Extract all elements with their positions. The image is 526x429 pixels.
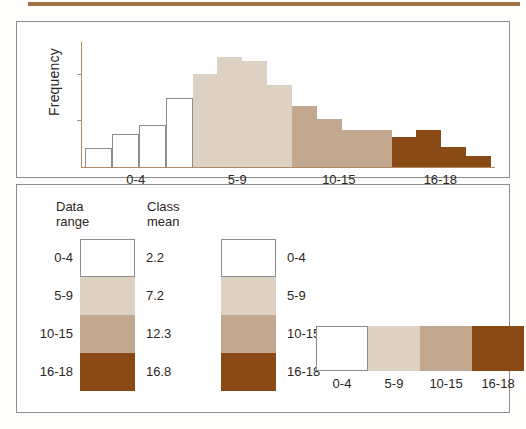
legend-range-label: 0-4 [54,250,73,265]
color-strip-labels: 0-45-910-1516-18 [316,376,524,391]
legend-header-data-range: Data range [56,199,89,229]
color-strip-cell [316,326,368,371]
legend-color-swatch [221,239,276,277]
legend-row: 5-9 [221,277,276,315]
color-strip-label: 16-18 [472,376,524,391]
histogram-bar [392,137,417,167]
y-axis-line [81,42,82,167]
histogram-bar [166,98,193,167]
legend-header-data-range-line1: Data [56,199,89,214]
histogram-bar [367,130,392,168]
top-divider-rule [28,2,520,6]
legend-row: 0-42.2 [80,239,135,277]
y-axis-tick [77,120,82,121]
histogram-bar [139,125,166,167]
color-strip-cell [368,326,420,371]
legend-color-swatch [221,315,276,353]
legend-panel: Data range Class mean 0-42.25-97.210-151… [16,184,510,413]
color-strip-label: 5-9 [368,376,420,391]
legend-header-class-mean-line1: Class [147,199,180,214]
histogram-panel: Frequency 0-45-910-1516-18 [16,21,510,178]
legend-row: 0-4 [221,239,276,277]
color-strip-cell [420,326,472,371]
histogram-bar [416,130,441,168]
histogram-bar [267,85,292,167]
legend-swatch-stack-left: 0-42.25-97.210-1512.316-1816.8 [80,239,135,391]
histogram-bar [466,156,491,167]
legend-color-swatch [80,315,135,353]
y-axis-tick [77,74,82,75]
histogram-bars [85,42,491,167]
legend-color-swatch [80,353,135,391]
histogram-plot: Frequency 0-45-910-1516-18 [17,22,509,177]
legend-class-mean-value: 2.2 [146,250,164,265]
histogram-bar [217,57,242,167]
color-strip-label: 10-15 [420,376,472,391]
legend-row: 5-97.2 [80,277,135,315]
color-strip-label: 0-4 [316,376,368,391]
legend-range-label: 5-9 [54,288,73,303]
color-strip-cell [472,326,524,371]
legend-header-class-mean-line2: mean [147,214,180,229]
legend-color-swatch [221,353,276,391]
legend-color-swatch [80,239,135,277]
legend-row: 16-1816.8 [80,353,135,391]
histogram-bar [317,119,342,167]
color-strip [316,326,524,371]
legend-range-label: 0-4 [287,250,306,265]
legend-range-label: 10-15 [40,326,73,341]
legend-header-data-range-line2: range [56,214,89,229]
histogram-bar [292,106,317,167]
histogram-bar [342,130,367,168]
x-axis-line [81,167,495,168]
legend-row: 10-1512.3 [80,315,135,353]
legend-range-label: 16-18 [40,364,73,379]
y-axis-label: Frequency [46,27,62,137]
histogram-bar [441,147,466,167]
legend-row: 16-18 [221,353,276,391]
legend-color-swatch [80,277,135,315]
histogram-bar [112,134,139,167]
legend-swatch-stack-right: 0-45-910-1516-18 [221,239,276,391]
legend-class-mean-value: 12.3 [146,326,171,341]
legend-color-swatch [221,277,276,315]
histogram-bar [242,61,267,167]
legend-header-class-mean: Class mean [147,199,180,229]
legend-row: 10-15 [221,315,276,353]
histogram-bar [193,74,218,167]
legend-range-label: 5-9 [287,288,306,303]
legend-class-mean-value: 7.2 [146,288,164,303]
histogram-bar [85,148,112,167]
legend-class-mean-value: 16.8 [146,364,171,379]
